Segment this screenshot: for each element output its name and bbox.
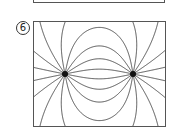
field-line	[61, 11, 71, 74]
dipole-field-diagram	[0, 0, 175, 128]
field-line	[127, 11, 137, 74]
field-line	[23, 74, 65, 106]
point-charge	[62, 71, 68, 77]
field-lines	[22, 10, 175, 128]
field-line	[133, 74, 175, 108]
field-line	[65, 69, 133, 74]
field-line	[65, 74, 133, 79]
point-charge	[130, 71, 136, 77]
field-line	[133, 41, 175, 75]
field-line	[65, 46, 133, 74]
field-line	[61, 74, 71, 128]
field-line	[65, 74, 133, 102]
figure-border	[34, 22, 166, 127]
field-line	[23, 42, 65, 74]
